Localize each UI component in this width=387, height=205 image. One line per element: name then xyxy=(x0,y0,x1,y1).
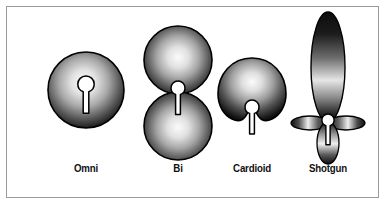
pattern-shotgun: Shotgun xyxy=(278,6,378,198)
shotgun-label: Shotgun xyxy=(284,162,372,174)
omni-polar-shape xyxy=(34,16,138,162)
shotgun-main-lobe xyxy=(311,12,345,122)
pattern-omni: Omni xyxy=(34,6,138,198)
omni-label: Omni xyxy=(40,162,132,174)
pattern-row: Omni xyxy=(6,6,379,198)
shotgun-polar-shape xyxy=(278,10,378,162)
polar-pattern-figure: Omni xyxy=(0,0,387,205)
microphone-capsule-icon xyxy=(245,100,259,134)
